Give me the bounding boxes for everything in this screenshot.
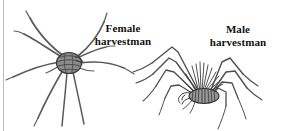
harvestman-illustration <box>0 0 283 131</box>
male-harvestman-drawing <box>133 47 262 129</box>
female-label-line2: harvestman <box>86 35 160 48</box>
male-harvestman-label: Male harvestman <box>201 23 275 48</box>
male-palps <box>183 100 195 113</box>
female-harvestman-label: Female harvestman <box>86 22 160 47</box>
male-head <box>179 93 191 104</box>
female-abdomen <box>57 53 82 74</box>
male-abdomen <box>189 89 219 104</box>
male-label-line1: Male <box>201 23 275 36</box>
female-label-line1: Female <box>86 22 160 35</box>
harvestman-figure: Female harvestman Male harvestman <box>0 0 283 131</box>
male-label-line2: harvestman <box>201 36 275 49</box>
